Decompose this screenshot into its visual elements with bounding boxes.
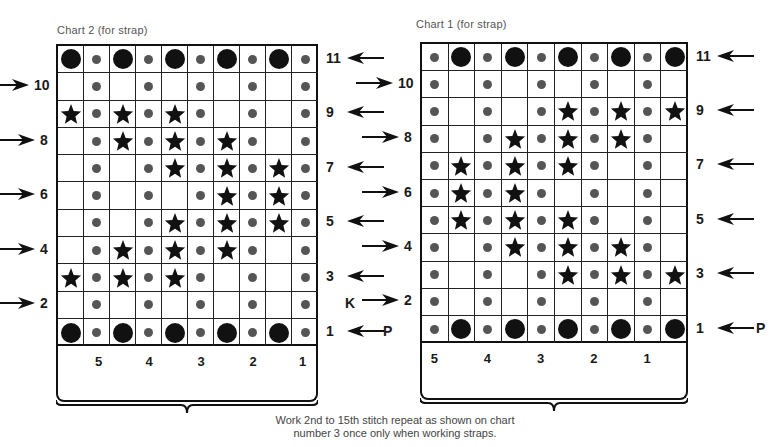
small-dot-icon — [590, 243, 599, 252]
cell-row6-col8 — [608, 180, 635, 207]
small-dot-icon — [301, 82, 310, 91]
cell-row11-col9 — [266, 46, 292, 73]
chart2-brace — [56, 400, 318, 414]
cell-row10-col10 — [661, 71, 688, 98]
cell-row9-col8 — [240, 101, 266, 128]
small-dot-icon — [590, 297, 599, 306]
cell-row6-col6 — [555, 180, 582, 207]
small-dot-icon — [643, 134, 652, 143]
cell-row8-col4 — [502, 126, 529, 153]
cell-row10-col2 — [449, 71, 476, 98]
small-dot-icon — [430, 297, 439, 306]
cell-row7-col6 — [188, 155, 214, 182]
row-label-10: 10 — [398, 76, 414, 90]
cell-row7-col7 — [214, 155, 240, 182]
cell-row10-col1 — [422, 71, 449, 98]
row-label-1: 1 — [696, 321, 704, 335]
row-label-11: 11 — [696, 49, 711, 63]
cell-row6-col1 — [422, 180, 449, 207]
star-icon — [216, 239, 238, 261]
large-circle-icon — [505, 319, 525, 339]
small-dot-icon — [430, 161, 439, 170]
small-dot-icon — [537, 216, 546, 225]
small-dot-icon — [643, 107, 652, 116]
cell-row8-col6 — [555, 126, 582, 153]
row-label-9: 9 — [696, 103, 704, 117]
large-circle-icon — [558, 47, 578, 67]
small-dot-icon — [643, 189, 652, 198]
small-dot-icon — [301, 137, 310, 146]
small-dot-icon — [430, 134, 439, 143]
cell-row9-col10 — [661, 98, 688, 125]
star-icon — [268, 185, 290, 207]
star-icon — [557, 100, 579, 122]
cell-row8-col3 — [475, 126, 502, 153]
small-dot-icon — [590, 80, 599, 89]
cell-row10-col6 — [555, 71, 582, 98]
small-dot-icon — [144, 109, 153, 118]
cell-row10-col8 — [608, 71, 635, 98]
cell-row8-col1 — [58, 128, 84, 155]
cell-row1-col2 — [449, 316, 476, 343]
star-icon — [164, 103, 186, 125]
stitch-number: 4 — [484, 351, 491, 366]
star-icon — [164, 212, 186, 234]
cell-row2-col8 — [240, 292, 266, 319]
cell-row4-col5 — [162, 237, 188, 264]
cell-row4-col9 — [635, 234, 662, 261]
row-label-8: 8 — [404, 130, 412, 144]
small-dot-icon — [144, 328, 153, 337]
large-circle-icon — [665, 319, 685, 339]
cell-row11-col4 — [502, 44, 529, 71]
small-dot-icon — [92, 328, 101, 337]
small-dot-icon — [301, 109, 310, 118]
star-icon — [60, 267, 82, 289]
cell-row3-col10 — [661, 262, 688, 289]
chart1-brace — [420, 398, 688, 412]
star-icon — [610, 100, 632, 122]
cell-row1-col5 — [528, 316, 555, 343]
cell-row11-col6 — [188, 46, 214, 73]
cell-row3-col1 — [422, 262, 449, 289]
cell-row10-col9 — [635, 71, 662, 98]
cell-row10-col5 — [528, 71, 555, 98]
small-dot-icon — [537, 134, 546, 143]
cell-row6-col9 — [266, 182, 292, 209]
small-dot-icon — [590, 270, 599, 279]
cell-row7-col1 — [58, 155, 84, 182]
cell-row11-col10 — [661, 44, 688, 71]
purl-label: P — [383, 324, 392, 338]
cell-row9-col9 — [266, 101, 292, 128]
cell-row5-col10 — [661, 207, 688, 234]
small-dot-icon — [144, 273, 153, 282]
small-dot-icon — [196, 300, 205, 309]
small-dot-icon — [196, 246, 205, 255]
small-dot-icon — [301, 246, 310, 255]
cell-row9-col3 — [110, 101, 136, 128]
small-dot-icon — [430, 189, 439, 198]
cell-row3-col9 — [266, 264, 292, 291]
large-circle-icon — [269, 323, 289, 343]
small-dot-icon — [196, 273, 205, 282]
star-icon — [557, 236, 579, 258]
caption: Work 2nd to 15th stitch repeat as shown … — [230, 414, 560, 440]
cell-row4-col5 — [528, 234, 555, 261]
small-dot-icon — [92, 82, 101, 91]
small-dot-icon — [92, 246, 101, 255]
stitch-number: 2 — [250, 354, 257, 369]
cell-row7-col5 — [528, 153, 555, 180]
cell-row9-col10 — [292, 101, 318, 128]
cell-row8-col3 — [110, 128, 136, 155]
cell-row3-col2 — [84, 264, 110, 291]
chart1-grid — [420, 42, 688, 343]
cell-row1-col7 — [582, 316, 609, 343]
cell-row4-col2 — [84, 237, 110, 264]
stitch-number: 4 — [146, 354, 153, 369]
cell-row5-col9 — [635, 207, 662, 234]
small-dot-icon — [643, 161, 652, 170]
small-dot-icon — [590, 53, 599, 62]
small-dot-icon — [301, 164, 310, 173]
small-dot-icon — [483, 325, 492, 334]
cell-row2-col6 — [188, 292, 214, 319]
cell-row1-col2 — [84, 319, 110, 346]
